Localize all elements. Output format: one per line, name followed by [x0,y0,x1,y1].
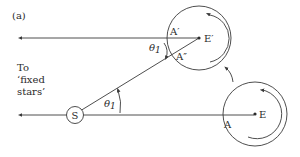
svg-text:θ1: θ1 [104,98,116,111]
point-a-prime-label: A′ [169,26,180,37]
angle-near-sun: θ1 [104,90,121,113]
rotation-arrow-icon [262,90,266,91]
label-line-3: stars’ [17,86,45,97]
sun: S [67,107,84,124]
angle-arrow-icon [118,90,121,113]
sun-label: S [72,110,79,121]
fixed-stars-label: To ‘fixed stars’ [17,62,45,97]
svg-text:θ1: θ1 [149,42,161,55]
panel-label: (a) [12,10,26,21]
angle-arrow-icon [164,43,167,58]
angle-near-earth: θ1 [149,42,167,58]
label-line-1: To [17,62,29,73]
sidereal-solar-day-diagram: (a) To ‘fixed stars’ S θ1 θ [0,0,300,157]
point-a-double-prime-label: A″ [175,51,187,62]
earth-initial-center-label: E [259,109,266,120]
point-a-label: A [223,119,232,130]
rotation-arrow-icon [208,14,210,15]
label-line-2: ‘fixed [17,74,45,85]
sun-to-earth-line [80,38,199,111]
earth-later-center-label: E′ [204,33,214,44]
orbit-arrow-icon [226,68,233,82]
earth-initial-position: E A [223,82,287,146]
